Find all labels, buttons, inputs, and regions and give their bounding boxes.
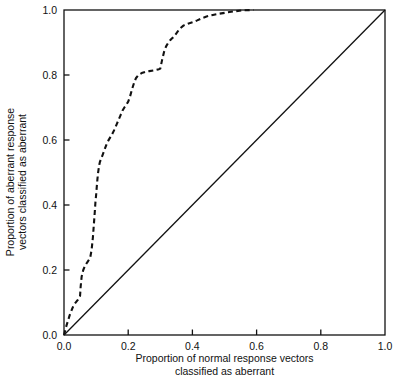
x-tick-label-2: 0.4 <box>185 340 200 352</box>
x-tick-label-1: 0.2 <box>121 340 136 352</box>
y-tick-label-4: 0.8 <box>42 69 57 81</box>
x-tick-label-4: 0.8 <box>313 340 328 352</box>
roc-chart-svg: 0.00.20.40.60.81.0 0.00.20.40.60.81.0 Pr… <box>0 0 395 382</box>
y-tick-label-5: 1.0 <box>42 4 57 16</box>
y-tick-label-1: 0.2 <box>42 264 57 276</box>
y-axis-title-line2: vectors classified as aberrant <box>16 114 28 250</box>
y-tick-label-3: 0.6 <box>42 134 57 146</box>
figure-background <box>0 0 395 382</box>
y-axis-title-line1: Proportion of aberrant response <box>4 108 16 256</box>
x-tick-label-5: 1.0 <box>378 340 393 352</box>
roc-chart-figure: 0.00.20.40.60.81.0 0.00.20.40.60.81.0 Pr… <box>0 0 395 382</box>
x-axis-title-line2: classified as aberrant <box>175 365 274 377</box>
x-tick-label-0: 0.0 <box>57 340 72 352</box>
x-axis-title-line1: Proportion of normal response vectors <box>135 352 313 364</box>
y-tick-label-2: 0.4 <box>42 199 57 211</box>
y-tick-label-0: 0.0 <box>42 329 57 341</box>
x-tick-label-3: 0.6 <box>249 340 264 352</box>
